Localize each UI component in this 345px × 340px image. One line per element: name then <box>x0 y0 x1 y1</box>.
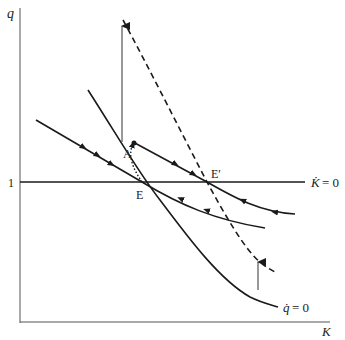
phase-diagram: q K 1 K̇ = 0 q̇ = 0 E E′ A <box>0 0 345 340</box>
point-a-label: A <box>123 147 132 161</box>
x-axis-label: K <box>321 324 332 339</box>
svg-text:q̇: q̇ <box>283 300 290 315</box>
point-e-prime-label: E′ <box>211 167 221 181</box>
q-dot-zero-label: q̇ = 0 <box>283 300 309 315</box>
svg-text:= 0: = 0 <box>292 300 309 315</box>
svg-text:= 0: = 0 <box>322 175 339 190</box>
svg-text:K̇: K̇ <box>310 175 321 190</box>
arrow-icon <box>180 199 186 202</box>
saddle-path-old <box>36 120 265 228</box>
arrow-icon <box>206 210 212 212</box>
y-axis-label: q <box>7 6 14 21</box>
k-dot-zero-label: K̇ = 0 <box>310 175 339 190</box>
point-e-label: E <box>136 188 143 202</box>
point-a-marker <box>132 141 137 146</box>
q-dot-zero-shifted-locus <box>123 20 275 272</box>
y-tick-1: 1 <box>8 176 14 190</box>
q-dot-zero-locus <box>88 90 278 307</box>
